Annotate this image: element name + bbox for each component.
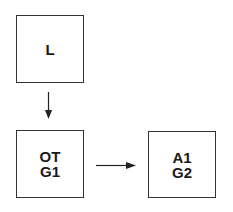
node-ot-g1: OT G1	[16, 130, 84, 198]
arrowhead-right-icon	[126, 162, 136, 169]
edge-ot-to-a1	[96, 162, 136, 169]
node-a1-label-line2: G2	[172, 165, 192, 180]
arrowhead-down-icon	[45, 110, 52, 119]
node-a1-label-line1: A1	[172, 150, 191, 165]
node-ot-label-line2: G1	[40, 164, 60, 179]
node-l: L	[16, 15, 84, 83]
node-a1-g2: A1 G2	[148, 131, 216, 198]
node-l-label: L	[45, 42, 54, 57]
node-ot-label-line1: OT	[40, 149, 61, 164]
edge-l-to-ot	[45, 92, 52, 119]
